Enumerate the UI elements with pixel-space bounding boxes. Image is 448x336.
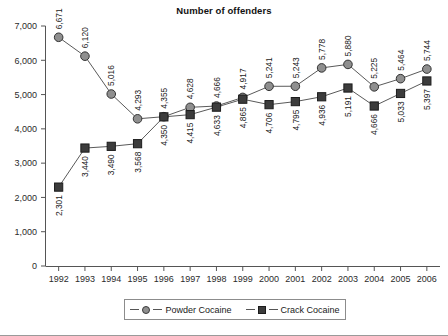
data-point-crack-cocaine[interactable] [265,101,273,109]
data-point-crack-cocaine[interactable] [133,140,141,148]
x-tick-label: 2002 [312,274,332,284]
data-point-powder-cocaine[interactable] [291,82,300,91]
data-point-powder-cocaine[interactable] [54,33,63,42]
y-tick-label: 7,000 [14,21,37,31]
data-point-powder-cocaine[interactable] [81,52,90,61]
legend-line-icon [153,309,162,310]
square-marker-icon [258,306,266,314]
y-tick-label: 5,000 [14,90,37,100]
data-point-powder-cocaine[interactable] [344,60,353,69]
circle-marker-icon [142,306,150,314]
x-tick-label: 1995 [128,274,148,284]
x-tick-label: 2005 [391,274,411,284]
value-label-powder-cocaine: 6,671 [54,8,64,29]
value-label-crack-cocaine: 4,415 [185,122,195,143]
x-tick-label: 2000 [259,274,279,284]
value-label-crack-cocaine: 4,936 [317,104,327,125]
value-label-crack-cocaine: 4,706 [264,112,274,133]
value-label-crack-cocaine: 3,568 [133,151,143,172]
data-point-powder-cocaine[interactable] [133,115,142,124]
value-label-crack-cocaine: 5,191 [343,96,353,117]
line-chart-plot: 01,0002,0003,0004,0005,0006,0007,000 199… [0,0,448,336]
data-point-crack-cocaine[interactable] [318,93,326,101]
legend-item-powder-cocaine[interactable]: Powder Cocaine [130,305,231,315]
value-label-powder-cocaine: 5,225 [369,58,379,79]
data-point-powder-cocaine[interactable] [370,83,379,92]
value-label-powder-cocaine: 4,355 [159,87,169,108]
value-label-powder-cocaine: 5,241 [264,57,274,78]
value-label-powder-cocaine: 4,628 [185,78,195,99]
x-tick-label: 1997 [180,274,200,284]
y-tick-label: 6,000 [14,56,37,66]
data-point-crack-cocaine[interactable] [81,144,89,152]
value-label-crack-cocaine: 4,795 [291,109,301,130]
x-tick-label: 2001 [285,274,305,284]
legend-line-icon [269,309,278,310]
data-point-crack-cocaine[interactable] [186,111,194,119]
chart-figure: Number of offenders 01,0002,0003,0004,00… [0,0,448,336]
value-label-crack-cocaine: 3,490 [106,154,116,175]
value-label-powder-cocaine: 5,243 [291,57,301,78]
data-point-crack-cocaine[interactable] [160,113,168,121]
x-tick-label: 1992 [49,274,69,284]
data-point-powder-cocaine[interactable] [107,90,116,99]
data-point-crack-cocaine[interactable] [344,84,352,92]
data-point-crack-cocaine[interactable] [55,183,63,191]
data-point-crack-cocaine[interactable] [239,95,247,103]
value-label-crack-cocaine: 4,633 [212,115,222,136]
data-point-powder-cocaine[interactable] [396,74,405,83]
x-tick-label: 1993 [75,274,95,284]
value-label-powder-cocaine: 4,917 [238,68,248,89]
value-label-powder-cocaine: 5,778 [317,39,327,60]
y-tick-label: 3,000 [14,158,37,168]
legend-line-icon [246,309,255,310]
chart-legend: Powder Cocaine Crack Cocaine [124,299,346,320]
data-point-powder-cocaine[interactable] [265,82,274,91]
value-label-powder-cocaine: 6,120 [80,27,90,48]
x-tick-label: 1996 [154,274,174,284]
data-point-crack-cocaine[interactable] [212,103,220,111]
data-point-crack-cocaine[interactable] [370,102,378,110]
value-label-crack-cocaine: 4,666 [369,114,379,135]
value-label-crack-cocaine: 4,350 [159,125,169,146]
value-label-powder-cocaine: 5,744 [422,40,432,61]
value-label-powder-cocaine: 5,016 [106,65,116,86]
y-tick-label: 0 [32,261,37,271]
value-label-powder-cocaine: 5,464 [396,49,406,70]
value-label-crack-cocaine: 3,440 [80,156,90,177]
legend-item-crack-cocaine[interactable]: Crack Cocaine [246,305,340,315]
value-label-powder-cocaine: 4,293 [133,90,143,111]
data-point-powder-cocaine[interactable] [317,64,326,73]
x-tick-label: 1994 [101,274,121,284]
data-value-labels: 6,6716,1205,0164,2934,3554,6284,6664,917… [54,8,432,216]
legend-line-icon [130,309,139,310]
x-axis-ticks: 1992199319941995199619971998199920002001… [49,267,437,285]
y-tick-label: 1,000 [14,227,37,237]
value-label-crack-cocaine: 4,865 [238,107,248,128]
data-point-crack-cocaine[interactable] [396,89,404,97]
x-tick-label: 2004 [364,274,384,284]
data-point-crack-cocaine[interactable] [423,77,431,85]
value-label-powder-cocaine: 5,880 [343,35,353,56]
value-label-crack-cocaine: 5,033 [396,101,406,122]
x-tick-label: 1999 [233,274,253,284]
value-label-crack-cocaine: 5,397 [422,89,432,110]
x-tick-label: 1998 [206,274,226,284]
y-tick-label: 2,000 [14,193,37,203]
y-tick-label: 4,000 [14,124,37,134]
legend-label-crack-cocaine: Crack Cocaine [281,305,340,315]
value-label-powder-cocaine: 4,666 [212,77,222,98]
x-tick-label: 2003 [338,274,358,284]
y-axis-ticks: 01,0002,0003,0004,0005,0006,0007,000 [14,21,45,271]
value-label-crack-cocaine: 2,301 [54,195,64,216]
data-point-crack-cocaine[interactable] [107,142,115,150]
data-point-powder-cocaine[interactable] [423,65,432,74]
x-tick-label: 2006 [417,274,437,284]
legend-label-powder-cocaine: Powder Cocaine [165,305,231,315]
chart-axes [46,26,441,267]
data-point-crack-cocaine[interactable] [291,98,299,106]
